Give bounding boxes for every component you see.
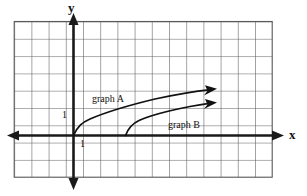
y-axis-tick-label-1: 1 bbox=[62, 110, 67, 120]
graph-canvas bbox=[0, 0, 307, 196]
y-axis-arrow-down-icon bbox=[69, 178, 79, 190]
coordinate-plane-figure: y x 1 1 graph A graph B bbox=[0, 0, 307, 196]
grid-rect bbox=[14, 22, 272, 178]
x-axis-label: x bbox=[289, 128, 296, 141]
curve-label-graph-b: graph B bbox=[168, 120, 200, 130]
y-axis-label: y bbox=[68, 1, 75, 14]
grid bbox=[14, 22, 272, 178]
x-axis-arrow-right-icon bbox=[272, 131, 284, 141]
x-axis-arrow-left-icon bbox=[7, 131, 19, 141]
x-axis-tick-label-1: 1 bbox=[80, 139, 85, 149]
curve-label-graph-a: graph A bbox=[92, 94, 124, 104]
